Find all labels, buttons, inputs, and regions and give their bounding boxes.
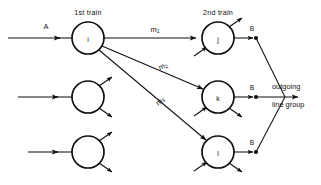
header-first-train: 1st train <box>74 8 101 17</box>
edge-left3-out-up <box>99 132 112 141</box>
point-label-b-bot: B <box>250 139 254 146</box>
edge-j-out-up <box>229 18 242 27</box>
node-label-j: j <box>217 36 219 43</box>
edge-left2-out-down <box>99 108 112 117</box>
b-dot-bot <box>254 150 258 154</box>
node-label-k: k <box>216 95 220 102</box>
edge-k-in-low <box>194 107 207 116</box>
node-circle-left-2[interactable] <box>72 81 104 113</box>
point-label-b-mid: B <box>250 84 254 91</box>
edge-i-to-k <box>102 46 203 89</box>
b-dot-mid <box>254 95 258 99</box>
diagram-canvas: 1st train 2nd train A i j k l m1 m2 m3 B… <box>0 0 321 185</box>
edge-i-to-l <box>99 50 206 140</box>
node-circle-left-3[interactable] <box>72 136 104 168</box>
node-label-l: l <box>217 150 219 157</box>
edge-left3-out-down <box>99 163 112 172</box>
outgoing-line-group-label-line1: outgoing <box>272 82 300 91</box>
branch-label-m1: m1 <box>151 25 160 34</box>
node-label-i: i <box>87 36 89 43</box>
b-point-dots <box>254 36 258 154</box>
edge-l-in-low <box>194 162 207 171</box>
point-label-b-top: B <box>250 25 254 32</box>
edge-left2-out-up <box>99 77 112 86</box>
header-second-train: 2nd train <box>203 8 233 17</box>
outgoing-line-group-label-line2: line group <box>272 100 304 109</box>
edge-k-out-down <box>229 108 242 117</box>
entry-label-a: A <box>44 22 49 31</box>
b-dot-top <box>254 36 258 40</box>
branch-label-m1-sub: 1 <box>157 28 160 34</box>
edge-l-out-down <box>229 163 242 172</box>
